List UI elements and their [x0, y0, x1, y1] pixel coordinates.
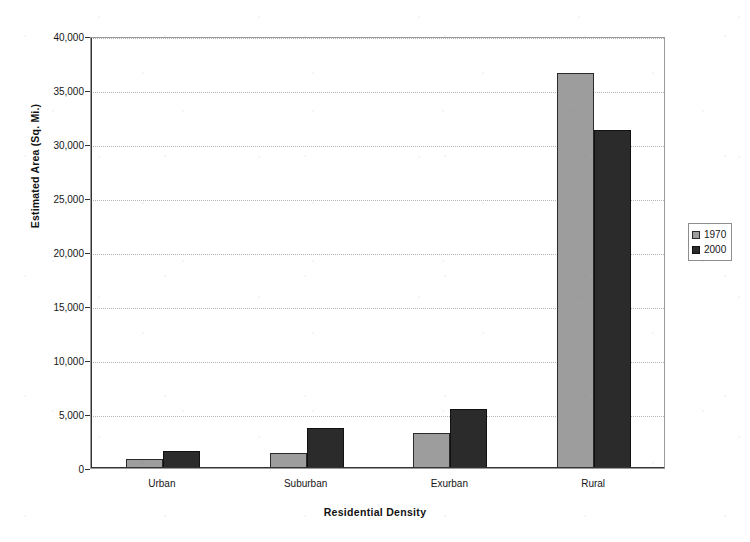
y-axis-line [91, 38, 92, 468]
legend-item-1970: 1970 [692, 227, 726, 242]
x-axis-line [91, 467, 664, 468]
x-axis-tick-label-rural: Rural [523, 478, 663, 489]
y-axis-tick-label: 10,000 [26, 356, 84, 367]
x-axis-tick-label-exurban: Exurban [379, 478, 519, 489]
bar-rural-2000 [594, 130, 631, 468]
y-axis-tick-label: 5,000 [26, 410, 84, 421]
x-axis-title: Residential Density [0, 506, 750, 518]
y-axis-tick-mark [85, 469, 90, 470]
bar-chart-figure: Estimated Area (Sq. Mi.) 05,00010,00015,… [0, 0, 750, 542]
y-axis-tick-label: 0 [26, 464, 84, 475]
x-axis-tick-label-urban: Urban [92, 478, 232, 489]
y-axis-tick-label: 30,000 [26, 140, 84, 151]
y-axis-tick-label: 25,000 [26, 194, 84, 205]
bar-exurban-1970 [413, 433, 450, 468]
legend-swatch-icon [692, 246, 700, 254]
legend-item-2000: 2000 [692, 242, 726, 257]
y-axis-tick-label: 40,000 [26, 32, 84, 43]
bar-suburban-1970 [270, 453, 307, 468]
y-axis-tick-label: 20,000 [26, 248, 84, 259]
legend-swatch-icon [692, 231, 700, 239]
y-axis-tick-label: 15,000 [26, 302, 84, 313]
bar-rural-1970 [557, 73, 594, 468]
plot-area [90, 37, 665, 469]
chart-legend: 19702000 [688, 223, 732, 261]
bar-exurban-2000 [450, 409, 487, 468]
bar-suburban-2000 [307, 428, 344, 468]
legend-item-label: 1970 [704, 229, 726, 240]
y-axis-tick-label: 35,000 [26, 86, 84, 97]
x-axis-tick-label-suburban: Suburban [236, 478, 376, 489]
legend-item-label: 2000 [704, 244, 726, 255]
gridline [91, 38, 664, 39]
bar-urban-2000 [163, 451, 200, 468]
